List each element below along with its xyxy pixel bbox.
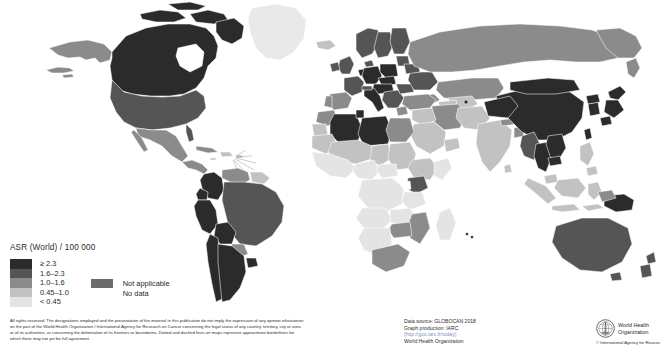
region-new-caledonia (643, 236, 648, 241)
region-greece (396, 106, 408, 116)
legend-item-1-6-2-3: 1.6–2.3 (10, 269, 69, 279)
region-seychelles (449, 181, 454, 186)
who-name-line-2: Organization (618, 329, 649, 335)
data-source-line: Data source: GLOBOCAN 2018 (404, 318, 584, 325)
source-credits: Data source: GLOBOCAN 2018 Graph product… (404, 318, 584, 344)
region-philippines-south (586, 166, 598, 176)
region-tunisia (356, 110, 364, 118)
legend-scale-column: ≥ 2.3 1.6–2.3 1.0–1.6 0.45–1.0 < 0.45 (10, 259, 69, 307)
legend-swatch-1-6-2-3 (10, 269, 32, 279)
region-pacific-islet-3 (636, 170, 641, 175)
legend-item-1-0-1-6: 1.0–1.6 (10, 278, 69, 288)
region-reunion (470, 235, 473, 238)
legend-swatch-lt-0-45 (10, 297, 32, 307)
legend-label-0-45-1-0: 0.45–1.0 (40, 288, 69, 298)
region-comoros (431, 203, 436, 208)
region-pacific-islet-1 (602, 174, 607, 179)
region-ireland (330, 62, 340, 72)
who-emblem-icon (596, 319, 615, 338)
region-japan-kyushu (600, 116, 612, 126)
region-atlantic-islet (291, 194, 296, 199)
iarc-copyright: © International Agency for Research on C… (596, 340, 660, 345)
legend-label-lt-0-45: < 0.45 (40, 297, 61, 307)
region-south-atlantic-islet (301, 264, 306, 269)
legend-item-lt-0-45: < 0.45 (10, 297, 69, 307)
legend-label-1-0-1-6: 1.0–1.6 (40, 278, 65, 288)
legend-item-0-45-1-0: 0.45–1.0 (10, 288, 69, 298)
globocan-map-figure: ASR (World) / 100 000 ≥ 2.3 1.6–2.3 1.0–… (0, 0, 660, 349)
region-malaysia (544, 174, 558, 184)
map-legend: ASR (World) / 100 000 ≥ 2.3 1.6–2.3 1.0–… (10, 243, 250, 307)
region-cambodia (548, 156, 562, 166)
who-logo-block: World Health Organization © Internationa… (596, 316, 660, 349)
region-fiji (644, 220, 649, 225)
graph-production-line: Graph production: IARC (404, 325, 584, 332)
region-mauritius (465, 232, 468, 235)
legend-extra-column: Not applicable No data (91, 278, 170, 299)
region-lesser-antilles-2 (252, 154, 257, 159)
legend-item-ge-2-3: ≥ 2.3 (10, 259, 69, 269)
region-small-marker-caspian (464, 100, 468, 104)
disclaimer-text: All rights reserved. The designations em… (10, 318, 392, 342)
region-cape-verde (300, 149, 305, 154)
region-north-korea (586, 94, 600, 104)
legend-swatch-ge-2-3 (10, 259, 32, 269)
region-vanuatu (637, 212, 642, 217)
region-western-sahara (312, 124, 328, 136)
region-lesser-antilles-4 (254, 168, 259, 173)
region-canary-islands (306, 126, 310, 130)
region-maldives (491, 176, 496, 181)
region-pacific-islet-5 (646, 194, 651, 199)
organization-line: World Health Organization (404, 338, 584, 345)
region-pacific-islet-2 (620, 176, 625, 181)
region-pacific-islet-4 (650, 180, 655, 185)
region-lesser-antilles-3 (256, 161, 261, 166)
legend-label-ge-2-3: ≥ 2.3 (40, 259, 56, 269)
legend-label-1-6-2-3: 1.6–2.3 (40, 269, 65, 279)
legend-item-not-applicable: Not applicable (91, 278, 170, 288)
legend-swatch-1-0-1-6 (10, 278, 32, 288)
figure-footer: All rights reserved. The designations em… (0, 316, 660, 349)
legend-swatch-0-45-1-0 (10, 288, 32, 298)
region-new-zealand-south (640, 264, 652, 278)
region-korea (588, 102, 600, 116)
region-switzerland (362, 86, 372, 90)
legend-label-no-data: No data (123, 289, 149, 299)
region-uganda (402, 181, 411, 190)
region-aleutian-islet (62, 74, 74, 78)
region-lesser-antilles-1 (246, 148, 251, 153)
legend-item-no-data: No data (91, 289, 170, 299)
who-name-line-1: World Health (618, 322, 649, 328)
disclaimer-line-4: which there may not yet be full agreemen… (10, 336, 392, 342)
legend-label-not-applicable: Not applicable (123, 279, 170, 289)
legend-swatch-no-data (91, 289, 113, 299)
legend-title: ASR (World) / 100 000 (10, 243, 250, 252)
legend-swatch-not-applicable (91, 279, 113, 289)
source-url-link[interactable]: (http://gco.iarc.fr/today) (404, 331, 584, 338)
region-jamaica (210, 158, 216, 160)
